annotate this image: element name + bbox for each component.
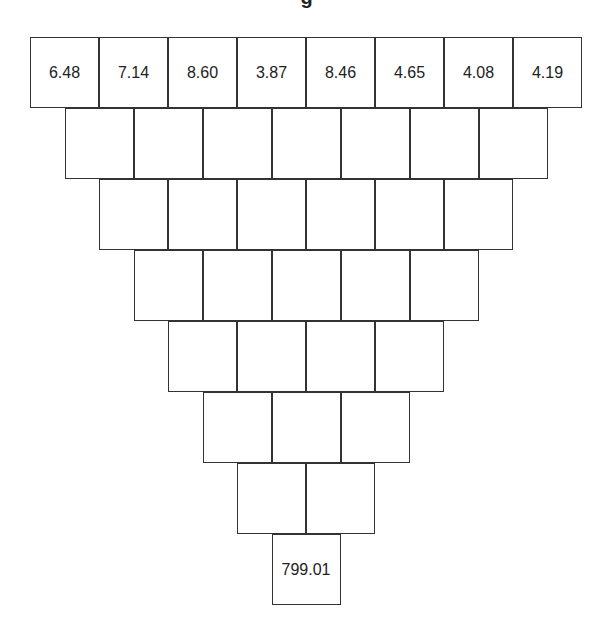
pyramid-cell: 4.08	[444, 37, 513, 108]
pyramid-cell	[99, 179, 168, 250]
pyramid-cell	[341, 250, 410, 321]
pyramid-cell	[341, 108, 410, 179]
pyramid-cell	[375, 321, 444, 392]
pyramid-cell	[203, 250, 272, 321]
pyramid-cell	[272, 250, 341, 321]
pyramid-cell	[306, 179, 375, 250]
pyramid-cell	[203, 392, 272, 463]
pyramid-cell	[203, 108, 272, 179]
pyramid-cell: 3.87	[237, 37, 306, 108]
pyramid-cell	[134, 108, 203, 179]
pyramid-cell	[272, 108, 341, 179]
pyramid-cell	[272, 392, 341, 463]
pyramid-cell	[375, 179, 444, 250]
pyramid-cell	[168, 321, 237, 392]
pyramid-cell: 7.14	[99, 37, 168, 108]
number-pyramid: 6.487.148.603.878.464.654.084.19799.01	[0, 0, 613, 631]
pyramid-cell	[306, 463, 375, 534]
pyramid-cell: 6.48	[30, 37, 99, 108]
pyramid-cell	[237, 321, 306, 392]
pyramid-cell	[134, 250, 203, 321]
pyramid-cell	[237, 463, 306, 534]
pyramid-cell: 4.65	[375, 37, 444, 108]
pyramid-cell	[410, 250, 479, 321]
pyramid-cell: 8.60	[168, 37, 237, 108]
pyramid-cell: 799.01	[272, 534, 341, 605]
pyramid-cell: 8.46	[306, 37, 375, 108]
pyramid-cell: 4.19	[513, 37, 582, 108]
pyramid-cell	[341, 392, 410, 463]
pyramid-cell	[306, 321, 375, 392]
pyramid-cell	[65, 108, 134, 179]
pyramid-cell	[168, 179, 237, 250]
pyramid-cell	[237, 179, 306, 250]
pyramid-cell	[410, 108, 479, 179]
pyramid-cell	[444, 179, 513, 250]
pyramid-cell	[479, 108, 548, 179]
